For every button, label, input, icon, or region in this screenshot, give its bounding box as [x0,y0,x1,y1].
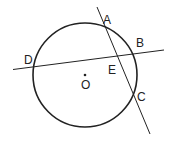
label-o: O [81,78,90,92]
label-e: E [108,63,116,77]
label-c: C [137,90,146,104]
geometry-diagram: A B D E O C [0,0,171,142]
center-point-o [84,74,87,77]
label-a: A [103,13,111,27]
label-d: D [24,53,33,67]
label-b: B [136,36,144,50]
